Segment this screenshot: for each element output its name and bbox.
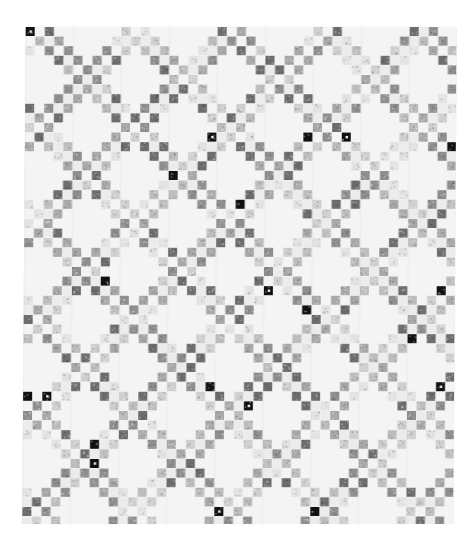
quilt-photo xyxy=(22,27,456,524)
quilt-patchwork-canvas xyxy=(22,27,456,524)
